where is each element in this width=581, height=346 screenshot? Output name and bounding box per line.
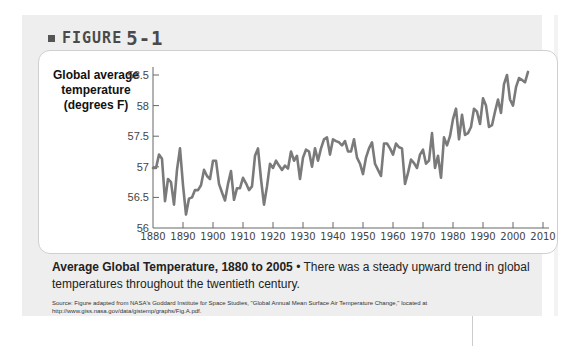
x-tick-label: 1920 [260,231,285,242]
x-tick-label: 2000 [500,231,525,242]
caption-title: Average Global Temperature, 1880 to 2005 [52,260,293,274]
x-tick-label: 1890 [170,231,195,242]
series-line [153,72,528,215]
x-tick-label: 1960 [380,231,405,242]
x-tick-label: 1880 [140,231,165,242]
y-tick-label: 58.5 [128,69,149,81]
caption-bullet: • [296,260,300,274]
y-tick-label: 56.5 [128,191,149,203]
x-tick-label: 1910 [230,231,255,242]
ticks: 5656.55757.55858.51880189019001910192019… [128,69,556,242]
y-tick-label: 58 [137,100,149,112]
x-tick-label: 1980 [440,231,465,242]
x-tick-label: 1940 [320,231,345,242]
x-tick-label: 1930 [290,231,315,242]
x-tick-label: 1950 [350,231,375,242]
x-tick-label: 1970 [410,231,435,242]
x-tick-label: 1990 [470,231,495,242]
figure-caption: Average Global Temperature, 1880 to 2005… [52,259,552,293]
y-tick-label: 57.5 [128,130,149,142]
series [153,72,528,215]
temperature-chart: 5656.55757.55858.51880189019001910192019… [0,0,581,346]
source-note: Source: Figure adapted from NASA's Godda… [52,299,552,315]
y-tick-label: 57 [137,161,149,173]
divider [472,316,473,346]
x-tick-label: 1900 [200,231,225,242]
x-tick-label: 2010 [530,231,555,242]
